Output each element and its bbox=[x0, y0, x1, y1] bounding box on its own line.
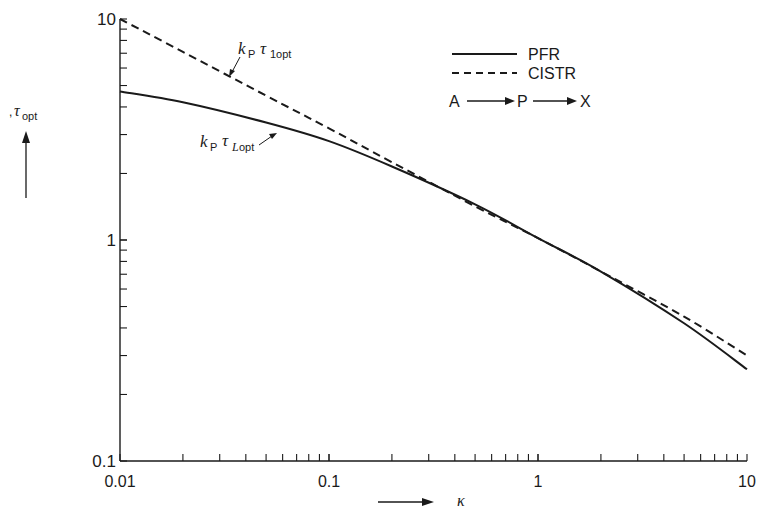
x-tick-label: 0.01 bbox=[104, 473, 135, 490]
svg-text:τ: τ bbox=[260, 39, 267, 58]
svg-text:k: k bbox=[200, 132, 208, 151]
svg-text:opt: opt bbox=[239, 141, 254, 153]
arrowhead-icon bbox=[567, 97, 577, 105]
y-tick-label: 0.1 bbox=[92, 452, 116, 471]
annotation-pfr: k P τ L opt bbox=[200, 131, 277, 154]
pointer-icon bbox=[259, 136, 272, 145]
legend-pfr-label: PFR bbox=[528, 46, 560, 63]
x-axis-title: κ bbox=[378, 492, 465, 509]
svg-text:1opt: 1opt bbox=[270, 48, 291, 60]
svg-text:τ: τ bbox=[14, 102, 21, 119]
species-a: A bbox=[449, 93, 460, 110]
arrowhead-icon bbox=[505, 97, 515, 105]
series-group bbox=[120, 19, 747, 369]
svg-text:opt: opt bbox=[22, 110, 37, 122]
svg-text:,: , bbox=[9, 105, 12, 119]
y-tick-label: 10 bbox=[97, 10, 116, 29]
axes: 0.010.11100.1110 bbox=[92, 10, 756, 490]
svg-text:τ: τ bbox=[222, 131, 229, 150]
x-tick-label: 1 bbox=[534, 473, 543, 490]
y-tick-label: 1 bbox=[107, 231, 116, 250]
annotation-cistr: k P τ 1opt bbox=[229, 39, 291, 77]
species-p: P bbox=[517, 93, 528, 110]
reaction-scheme: A P X bbox=[449, 93, 591, 110]
legend: PFR CISTR A P X bbox=[449, 46, 591, 110]
svg-text:P: P bbox=[210, 141, 217, 153]
species-x: X bbox=[580, 93, 591, 110]
pointer-icon bbox=[232, 57, 240, 72]
cistr-curve bbox=[120, 19, 747, 356]
x-tick-label: 0.1 bbox=[318, 473, 340, 490]
svg-text:k: k bbox=[238, 39, 246, 58]
chart-canvas: 0.010.11100.1110 PFR CISTR A P X k P τ 1… bbox=[0, 0, 770, 513]
pfr-curve bbox=[120, 91, 747, 369]
legend-cistr-label: CISTR bbox=[528, 65, 576, 82]
svg-text:κ: κ bbox=[457, 492, 465, 509]
svg-text:L: L bbox=[231, 140, 239, 154]
y-axis-title: , τ opt bbox=[9, 102, 37, 198]
svg-text:P: P bbox=[248, 48, 255, 60]
x-tick-label: 10 bbox=[738, 473, 756, 490]
